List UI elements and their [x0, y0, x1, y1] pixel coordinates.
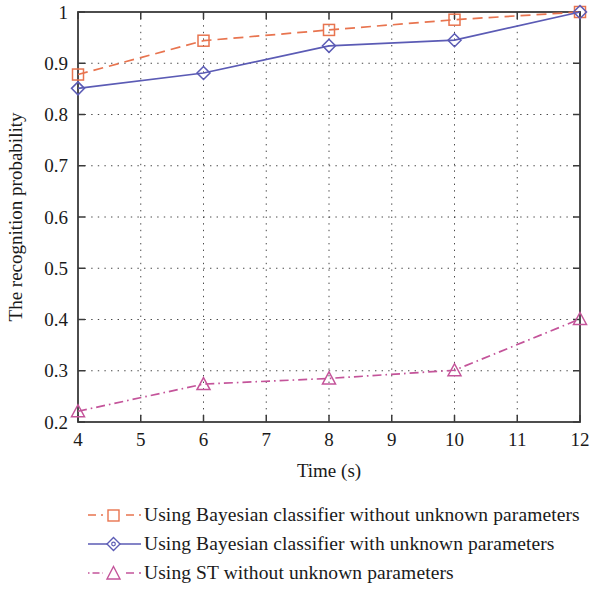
xtick-label: 11: [508, 429, 526, 450]
chart-figure: 0.20.30.40.50.60.70.80.91456789101112Tim…: [0, 0, 603, 590]
y-axis-title: The recognition probability: [5, 112, 26, 321]
legend-item: Using Bayesian classifier with unknown p…: [86, 529, 596, 558]
legend-key-st-without: [86, 562, 144, 584]
xtick-label: 5: [136, 429, 146, 450]
ytick-label: 0.8: [44, 104, 68, 125]
series-2: [72, 312, 587, 416]
ytick-label: 1: [59, 2, 69, 23]
xtick-label: 4: [73, 429, 83, 450]
x-axis-title: Time (s): [297, 460, 361, 482]
axis-tick-labels: 0.20.30.40.50.60.70.80.91456789101112: [44, 2, 589, 451]
xtick-label: 10: [445, 429, 464, 450]
ytick-label: 0.3: [44, 360, 68, 381]
ytick-label: 0.4: [44, 309, 68, 330]
line-chart-plot: 0.20.30.40.50.60.70.80.91456789101112Tim…: [0, 0, 603, 500]
xtick-label: 7: [262, 429, 272, 450]
xtick-label: 9: [387, 429, 397, 450]
chart-gridlines: [78, 12, 580, 422]
ytick-label: 0.7: [44, 155, 68, 176]
ytick-label: 0.2: [44, 412, 68, 433]
legend-label: Using ST without unknown parameters: [144, 562, 454, 584]
xtick-label: 12: [571, 429, 590, 450]
ytick-label: 0.9: [44, 53, 68, 74]
chart-legend: Using Bayesian classifier without unknow…: [86, 500, 596, 587]
legend-item: Using Bayesian classifier without unknow…: [86, 500, 596, 529]
legend-key-bayesian-with: [86, 533, 144, 555]
ytick-label: 0.6: [44, 207, 68, 228]
xtick-label: 8: [324, 429, 334, 450]
xtick-label: 6: [199, 429, 209, 450]
legend-label: Using Bayesian classifier without unknow…: [144, 504, 580, 526]
ytick-label: 0.5: [44, 258, 68, 279]
legend-item: Using ST without unknown parameters: [86, 558, 596, 587]
series-line: [78, 319, 580, 411]
legend-label: Using Bayesian classifier with unknown p…: [144, 533, 555, 555]
legend-key-bayesian-without: [86, 504, 144, 526]
series-line: [78, 12, 580, 88]
